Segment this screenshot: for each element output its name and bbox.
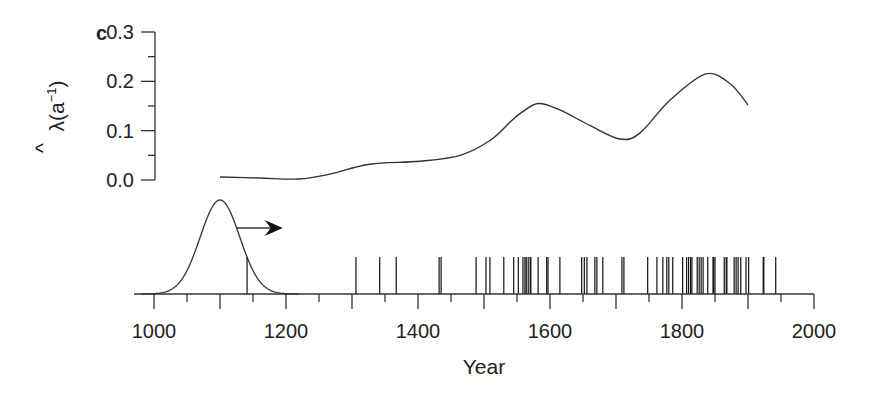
y-axis-hat: ^ [31, 143, 54, 153]
y-tick-label: 0.2 [106, 70, 134, 92]
rate-curve [220, 73, 748, 179]
x-axis-label: Year [463, 355, 505, 378]
y-tick-label: 0.0 [106, 169, 134, 191]
y-axis: 0.00.10.20.3 [106, 21, 155, 191]
y-axis-label: λ(a−1) [44, 80, 68, 131]
x-tick-label: 2000 [792, 320, 837, 342]
gaussian-kernel [141, 200, 299, 294]
x-tick-label: 1400 [396, 320, 441, 342]
x-tick-label: 1200 [264, 320, 309, 342]
kernel-rate-chart: c 0.00.10.20.3 λ(a−1) ^ 1000120014001600… [0, 0, 881, 400]
y-axis-title: λ(a−1) ^ [31, 80, 68, 152]
x-tick-label: 1000 [132, 320, 177, 342]
event-markers [247, 257, 776, 294]
x-axis: 100012001400160018002000 [132, 294, 837, 342]
y-tick-label: 0.3 [106, 21, 134, 43]
arrow-right-icon [237, 220, 283, 236]
y-tick-label: 0.1 [106, 120, 134, 142]
x-tick-label: 1800 [660, 320, 705, 342]
x-tick-label: 1600 [528, 320, 573, 342]
